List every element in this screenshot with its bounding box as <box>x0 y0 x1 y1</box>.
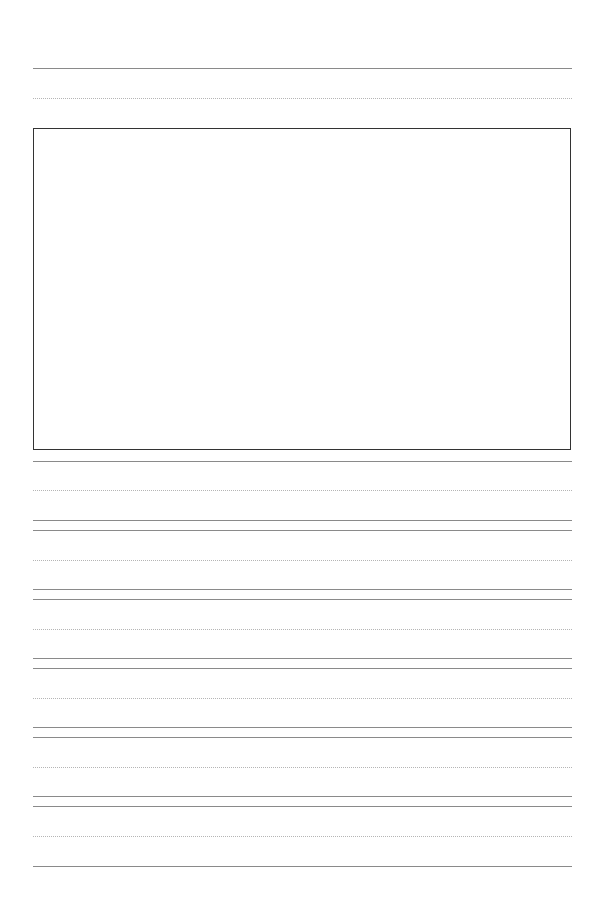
dotted-midline <box>33 490 572 491</box>
solid-guide-line <box>33 727 572 728</box>
dotted-midline <box>33 767 572 768</box>
solid-guide-line <box>33 658 572 659</box>
solid-guide-line <box>33 796 572 797</box>
writing-paper-page <box>0 0 599 900</box>
drawing-box <box>33 128 571 450</box>
solid-guide-line <box>33 806 572 807</box>
solid-guide-line <box>33 520 572 521</box>
solid-guide-line <box>33 737 572 738</box>
solid-guide-line <box>33 68 572 69</box>
dotted-midline <box>33 698 572 699</box>
dotted-midline <box>33 629 572 630</box>
dotted-midline <box>33 836 572 837</box>
dotted-midline <box>33 560 572 561</box>
solid-guide-line <box>33 589 572 590</box>
solid-guide-line <box>33 461 572 462</box>
solid-guide-line <box>33 668 572 669</box>
dotted-midline <box>33 98 572 99</box>
solid-guide-line <box>33 599 572 600</box>
solid-guide-line <box>33 530 572 531</box>
solid-guide-line <box>33 866 572 867</box>
